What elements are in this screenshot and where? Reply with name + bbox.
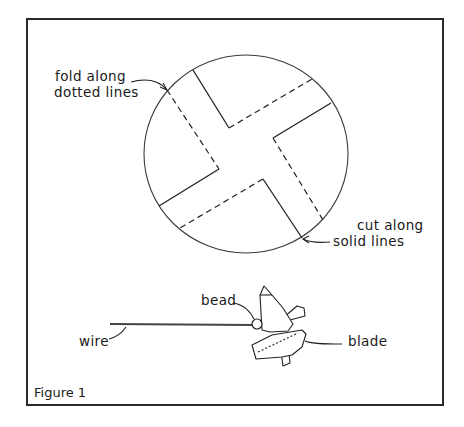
wire-annotation: wire: [79, 327, 126, 349]
cut-label-line1: cut along: [357, 217, 424, 233]
blade-label: blade: [348, 333, 387, 349]
fold-line-left: [167, 90, 219, 169]
blade-top: [260, 286, 293, 332]
wire-label: wire: [79, 333, 109, 349]
bead-leader: [234, 303, 254, 319]
blade-bottom: [252, 330, 306, 359]
figure-diagram: fold along dotted lines cut along solid …: [0, 0, 464, 427]
fold-line-right: [273, 138, 323, 220]
cut-line-bottom: [263, 179, 302, 238]
bead-label: bead: [201, 292, 236, 308]
fold-line-bottom: [180, 179, 263, 228]
disc-template: [144, 55, 348, 253]
cut-line-top: [193, 70, 229, 128]
bead-annotation: bead: [201, 292, 254, 319]
blade-leader: [305, 341, 342, 344]
cut-arrowhead-icon: [303, 236, 309, 243]
bead: [252, 319, 262, 329]
blade-annotation: blade: [305, 333, 387, 349]
disc-outline: [144, 55, 348, 253]
fold-label-line2: dotted lines: [54, 84, 139, 100]
figure-caption: Figure 1: [34, 385, 86, 400]
fold-label-line1: fold along: [55, 68, 126, 84]
wire: [110, 324, 253, 325]
cut-line-left: [159, 169, 219, 206]
cut-label-line2: solid lines: [333, 233, 404, 249]
fold-line-top: [229, 79, 312, 128]
cut-line-right: [273, 103, 331, 138]
wire-leader: [109, 327, 126, 339]
fold-annotation: fold along dotted lines: [54, 68, 167, 100]
